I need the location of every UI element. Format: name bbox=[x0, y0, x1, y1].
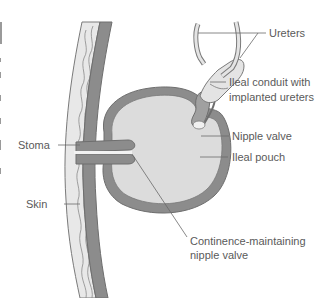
label-nipple-valve: Nipple valve bbox=[232, 130, 292, 143]
stoma-channel bbox=[74, 140, 135, 164]
label-ileal-pouch: Ileal pouch bbox=[232, 151, 285, 164]
label-continence-line1: Continence-maintaining bbox=[190, 235, 306, 248]
label-ureters: Ureters bbox=[269, 27, 305, 40]
ureters bbox=[196, 22, 239, 76]
ileal-pouch-diagram: Ureters Ileal conduit with implanted ure… bbox=[0, 0, 319, 298]
label-stoma: Stoma bbox=[18, 139, 50, 152]
label-ileal-conduit-line2: implanted ureters bbox=[229, 91, 314, 104]
label-ileal-conduit-line1: Ileal conduit with bbox=[229, 76, 310, 89]
label-skin: Skin bbox=[26, 198, 47, 211]
label-continence-line2: nipple valve bbox=[190, 249, 248, 262]
